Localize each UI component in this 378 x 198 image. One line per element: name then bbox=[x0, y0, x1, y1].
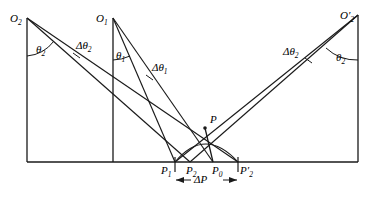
label-O1-center-sub: 1 bbox=[104, 18, 108, 27]
label-station-O1-center: O1 bbox=[96, 13, 108, 27]
label-delta-theta-2-left: Δθ2 bbox=[76, 40, 92, 54]
label-theta-2-left: θ2 bbox=[36, 44, 45, 58]
label-delta-theta-2-right-base: Δθ bbox=[283, 45, 295, 57]
label-theta-2-right: θ2 bbox=[336, 52, 345, 66]
label-theta-1-center-sub: 1 bbox=[121, 55, 125, 64]
target-point-marker bbox=[203, 126, 207, 130]
ray-left-station-upper bbox=[27, 18, 238, 162]
label-target-point-P: P bbox=[210, 114, 217, 125]
label-delta-P: ΔP bbox=[194, 174, 207, 185]
ray-center-station-outer bbox=[113, 18, 213, 162]
label-P0-base: P bbox=[212, 164, 219, 176]
label-delta-theta-2-left-sub: 2 bbox=[88, 45, 92, 54]
delta-theta-1-center-tick bbox=[146, 75, 153, 80]
label-delta-theta-2-left-base: Δθ bbox=[76, 39, 88, 51]
label-P-base: P bbox=[210, 113, 217, 125]
figure-container: O2 O1 O′2 θ2 θ1 θ2 Δθ2 Δθ1 Δθ2 P P1 P2 P… bbox=[0, 0, 378, 198]
label-station-O2-left: O2 bbox=[10, 13, 22, 27]
label-P1-base: P bbox=[161, 164, 168, 176]
label-point-P1: P1 bbox=[161, 165, 171, 179]
label-O2-left-base: O bbox=[10, 12, 18, 24]
delta-p-arrowhead-left bbox=[176, 177, 184, 183]
label-delta-theta-2-right: Δθ2 bbox=[283, 46, 299, 60]
delta-p-arrowhead-right bbox=[229, 177, 237, 183]
label-O2-left-sub: 2 bbox=[18, 18, 22, 27]
ray-right-station-upper bbox=[175, 15, 358, 162]
ray-right-station-lower bbox=[190, 15, 358, 162]
label-point-P2-prime: P′2 bbox=[240, 165, 253, 179]
label-theta-2-left-sub: 2 bbox=[41, 49, 45, 58]
label-P1-sub: 1 bbox=[168, 170, 172, 179]
label-P2-prime-base: P bbox=[240, 164, 247, 176]
label-O2-prime-sub: 2 bbox=[350, 15, 354, 24]
label-point-P0: P0 bbox=[212, 165, 222, 179]
label-delta-theta-1-center-base: Δθ bbox=[152, 61, 164, 73]
label-theta-1-center: θ1 bbox=[116, 50, 125, 64]
label-P2-base: P bbox=[186, 164, 193, 176]
ray-center-station-inner bbox=[113, 18, 175, 162]
label-O1-center-base: O bbox=[96, 12, 104, 24]
label-P0-sub: 0 bbox=[219, 170, 223, 179]
label-station-O2-prime-right: O′2 bbox=[340, 10, 354, 24]
label-delta-P-base: ΔP bbox=[194, 173, 207, 185]
label-P2-prime-sub: 2 bbox=[249, 170, 253, 179]
label-delta-theta-1-center-sub: 1 bbox=[164, 67, 168, 76]
label-O2-prime-base: O bbox=[340, 9, 348, 21]
label-theta-2-right-sub: 2 bbox=[341, 57, 345, 66]
label-delta-theta-1-center: Δθ1 bbox=[152, 62, 168, 76]
label-delta-theta-2-right-sub: 2 bbox=[295, 51, 299, 60]
